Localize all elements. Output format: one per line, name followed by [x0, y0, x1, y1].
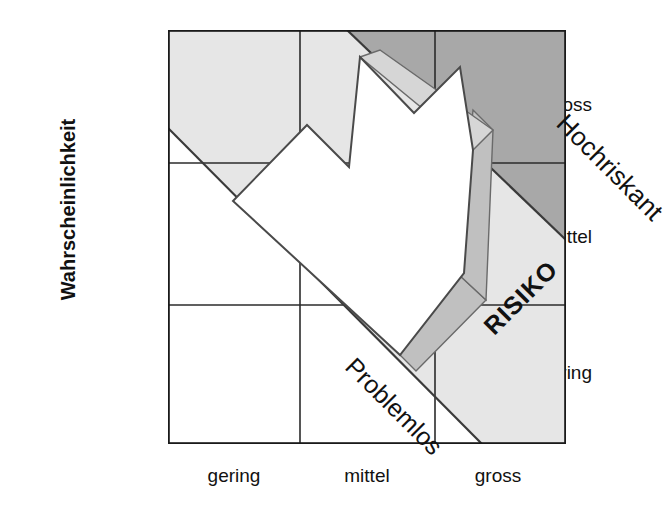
matrix-plot-area: Hochriskant Problemlos RISIKO: [168, 30, 566, 444]
y-axis-title: Wahrscheinlichkeit: [57, 80, 80, 340]
zone-label-hochriskant: Hochriskant: [550, 108, 667, 227]
x-tick-label-gering: gering: [164, 465, 304, 487]
x-tick-label-mittel: mittel: [297, 465, 437, 487]
x-tick-label-gross: gross: [428, 465, 568, 487]
